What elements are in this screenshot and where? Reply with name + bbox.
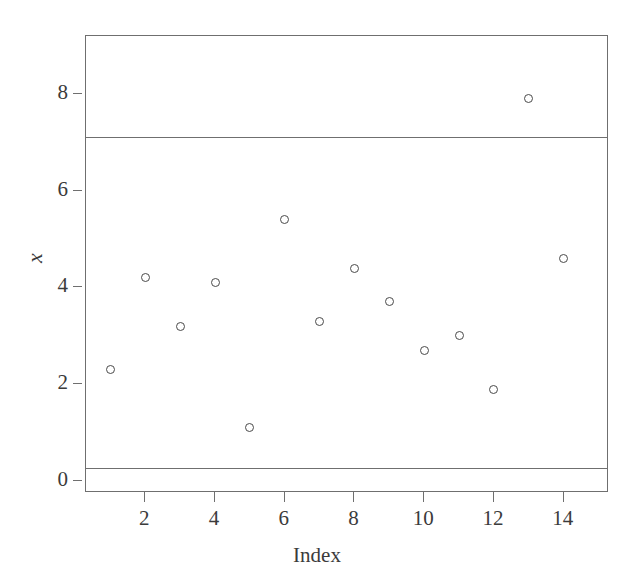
data-point — [245, 423, 254, 432]
y-axis-tick-mark — [73, 480, 82, 481]
x-axis-tick-label: 4 — [187, 508, 241, 529]
x-axis-tick-mark — [144, 492, 145, 502]
x-axis-tick-mark — [214, 492, 215, 502]
x-axis-tick-mark — [353, 492, 354, 502]
x-axis-tick-label: 6 — [257, 508, 311, 529]
y-axis-tick-label: 4 — [22, 275, 68, 296]
y-axis-tick-label: 2 — [22, 372, 68, 393]
y-axis-tick-label: 8 — [22, 82, 68, 103]
data-point — [489, 385, 498, 394]
data-point — [385, 297, 394, 306]
x-axis-tick-label: 8 — [326, 508, 380, 529]
x-axis-tick-mark — [284, 492, 285, 502]
x-axis-tick-mark — [493, 492, 494, 502]
control-chart-figure: x 02468 2468101214 Index — [0, 0, 634, 583]
lower-control-limit — [86, 468, 607, 469]
x-axis-tick-label: 2 — [117, 508, 171, 529]
x-axis-tick-label: 12 — [466, 508, 520, 529]
y-axis-tick-mark — [73, 93, 82, 94]
y-axis-tick-label: 6 — [22, 179, 68, 200]
data-point — [559, 254, 568, 263]
plot-area — [85, 35, 608, 492]
data-point — [420, 346, 429, 355]
x-axis-tick-mark — [563, 492, 564, 502]
data-point — [211, 278, 220, 287]
y-axis-tick-label: 0 — [22, 469, 68, 490]
x-axis-tick-mark — [423, 492, 424, 502]
data-point — [141, 273, 150, 282]
x-axis-title: Index — [0, 543, 634, 568]
y-axis-tick-mark — [73, 286, 82, 287]
data-point — [106, 365, 115, 374]
y-axis-tick-mark — [73, 383, 82, 384]
data-point — [280, 215, 289, 224]
data-point — [524, 94, 533, 103]
data-point — [350, 264, 359, 273]
data-point — [455, 331, 464, 340]
x-axis-tick-label: 14 — [536, 508, 590, 529]
y-axis-tick-mark — [73, 190, 82, 191]
data-point — [176, 322, 185, 331]
data-point — [315, 317, 324, 326]
x-axis-tick-label: 10 — [396, 508, 450, 529]
upper-control-limit — [86, 137, 607, 138]
